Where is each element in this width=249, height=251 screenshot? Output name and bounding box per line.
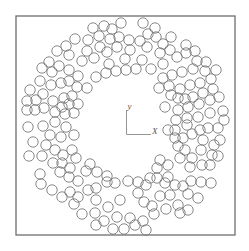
particle-circle (161, 204, 171, 214)
particle-circle (102, 47, 112, 57)
annular-particle-diagram: X y (0, 0, 249, 251)
particle-circle (45, 130, 55, 140)
particle-circle (46, 80, 56, 90)
particle-circle (194, 99, 204, 109)
particle-circle (101, 68, 111, 78)
particle-circle (50, 145, 60, 155)
particle-circle (155, 48, 165, 58)
particle-circle (70, 34, 80, 44)
particle-circle (110, 178, 120, 188)
particle-circle (89, 53, 99, 63)
particle-circle (64, 65, 74, 75)
particle-circle (186, 176, 196, 186)
particle-circle (25, 85, 35, 95)
particle-circle (175, 84, 185, 94)
particle-circle (77, 209, 87, 219)
particle-circle (193, 112, 203, 122)
particle-circle (90, 208, 100, 218)
particle-circle (141, 225, 151, 235)
particle-circle (56, 132, 66, 142)
particle-circle (64, 50, 74, 60)
particle-circle (35, 76, 45, 86)
particle-circle (197, 160, 207, 170)
particle-circle (185, 80, 195, 90)
particle-circle (196, 177, 206, 187)
particle-circle (187, 153, 197, 163)
particle-circle (91, 72, 101, 82)
particle-circle (173, 105, 183, 115)
particle-circle (50, 107, 60, 117)
particle-circle (155, 191, 165, 201)
particle-circle (116, 18, 126, 28)
particle-circle (139, 197, 149, 207)
particle-circle (77, 56, 87, 66)
particle-circle (133, 188, 143, 198)
particle-circle (130, 220, 140, 230)
coordinate-axes: X y (127, 101, 159, 136)
particle-circle (61, 122, 71, 132)
particle-circle (94, 31, 104, 41)
particle-circle (165, 190, 175, 200)
particle-circle (82, 83, 92, 93)
particle-circle (142, 42, 152, 52)
particle-circle (163, 160, 173, 170)
particle-circle (112, 212, 122, 222)
particle-circle (177, 67, 187, 77)
particle-circle (38, 121, 48, 131)
particle-circle (121, 65, 131, 75)
particle-circle (108, 224, 118, 234)
y-axis-label: y (127, 101, 132, 111)
particle-circle (24, 151, 34, 161)
particle-circle (198, 88, 208, 98)
particle-circle (175, 153, 185, 163)
particle-circle (196, 145, 206, 155)
particle-circle (181, 48, 191, 58)
particle-circle (198, 135, 208, 145)
particle-circle (65, 187, 75, 197)
particle-circle (170, 125, 180, 135)
particle-circle (39, 103, 49, 113)
particle-circle (138, 18, 148, 28)
particle-circle (158, 73, 168, 83)
particle-circle (111, 66, 121, 76)
particle-circle (47, 185, 57, 195)
particle-circle (112, 42, 122, 52)
particle-circle (131, 64, 141, 74)
particle-circle (57, 102, 67, 112)
particle-circle (73, 176, 83, 186)
particle-circle (195, 78, 205, 88)
particle-circle (207, 150, 217, 160)
particle-circle (178, 181, 188, 191)
particle-circle (137, 55, 147, 65)
particle-circle (205, 108, 215, 118)
particle-circle (115, 195, 125, 205)
particle-circle (91, 220, 101, 230)
particle-circle (38, 89, 48, 99)
particle-circle (208, 84, 218, 94)
particle-circle (120, 54, 130, 64)
particle-circle (71, 153, 81, 163)
particle-circle (205, 160, 215, 170)
particle-circle (50, 117, 60, 127)
particle-circle (154, 83, 164, 93)
particle-circle (114, 32, 124, 42)
particle-circle (83, 35, 93, 45)
particle-circle (69, 130, 79, 140)
particle-circle (35, 169, 45, 179)
particle-circle (23, 122, 33, 132)
particle-circle (125, 213, 135, 223)
particle-circle (57, 192, 67, 202)
particle-circle (181, 40, 191, 50)
particle-circle (123, 176, 133, 186)
x-axis-label: X (151, 126, 158, 136)
particle-circle (37, 63, 47, 73)
particle-circle (99, 216, 109, 226)
particle-circle (124, 35, 134, 45)
particle-circle (171, 115, 181, 125)
particle-circle (36, 179, 46, 189)
particle-circle (183, 189, 193, 199)
particle-circle (103, 202, 113, 212)
particle-circle (160, 178, 170, 188)
particle-circle (67, 145, 77, 155)
particle-circle (158, 59, 168, 69)
